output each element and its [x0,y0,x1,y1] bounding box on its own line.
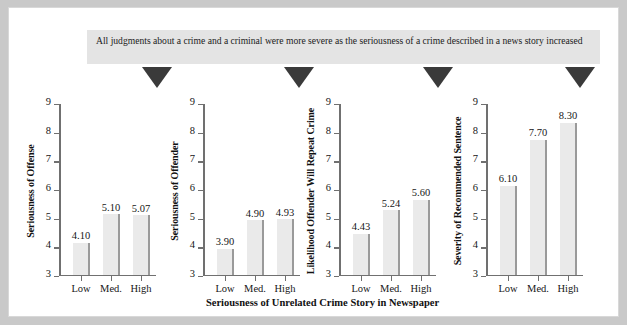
y-axis-tick-label: 8 [326,125,331,136]
bar [500,186,517,275]
y-axis-tick-label: 6 [190,182,195,193]
y-axis-tick: 4 [198,247,203,248]
y-axis-tick: 7 [198,161,203,162]
plot-area: 34567894.43Low5.24Med.5.60High [339,104,435,276]
y-axis-tick: 7 [54,161,59,162]
y-axis-tick-label: 9 [473,96,478,107]
y-axis-tick-label: 8 [190,125,195,136]
y-axis-tick: 8 [481,133,486,134]
bar [383,210,400,274]
x-axis-tick [225,276,226,281]
plot-area: 34567893.90Low4.90Med.4.93High [203,104,299,276]
x-axis-tick [361,276,362,281]
y-axis-line [339,104,341,276]
y-axis-tick: 5 [198,219,203,220]
bar [277,219,294,274]
y-axis-tick: 3 [334,276,339,277]
y-axis-label: Seriousness of Offender [169,107,183,275]
y-axis-tick-label: 4 [326,239,331,250]
figure-canvas: All judgments about a crime and a crimin… [8,7,619,317]
y-axis-tick: 3 [198,276,203,277]
bar-value-label: 7.70 [516,127,560,138]
x-axis-tick [508,276,509,281]
bar [103,214,120,274]
figure-frame: All judgments about a crime and a crimin… [0,0,627,325]
y-axis-tick: 6 [54,190,59,191]
down-triangle-icon [565,67,595,88]
y-axis-tick-label: 3 [190,268,195,279]
bar-value-label: 4.43 [339,221,383,232]
down-triangle-icon [284,67,314,88]
bar-value-label: 5.07 [119,203,163,214]
y-axis-tick-label: 6 [46,182,51,193]
x-axis-tick [141,276,142,281]
bar-value-label: 5.24 [369,198,413,209]
y-axis-tick-label: 5 [190,211,195,222]
y-axis-tick-label: 3 [326,268,331,279]
x-axis-tick [255,276,256,281]
bar [217,249,234,275]
y-axis-line [203,104,205,276]
down-triangle-icon [423,67,453,88]
y-axis-tick: 8 [54,133,59,134]
y-axis-tick: 6 [198,190,203,191]
bar [247,220,264,274]
y-axis-tick-label: 9 [190,96,195,107]
y-axis-tick-label: 9 [46,96,51,107]
y-axis-tick-label: 7 [46,153,51,164]
y-axis-label: Likelihood Offender Will Repeat Crime [305,107,319,275]
x-axis-tick [111,276,112,281]
y-axis-tick-label: 7 [326,153,331,164]
y-axis-tick: 5 [481,219,486,220]
bar [73,243,90,275]
x-axis-tick [421,276,422,281]
y-axis-tick: 9 [54,104,59,105]
x-axis-tick [81,276,82,281]
bar [413,200,430,275]
y-axis-tick: 6 [334,190,339,191]
y-axis-line [486,104,488,276]
y-axis-tick-label: 5 [326,211,331,222]
y-axis-tick-label: 6 [473,182,478,193]
x-axis-tick [568,276,569,281]
y-axis-tick: 5 [334,219,339,220]
y-axis-tick-label: 3 [46,268,51,279]
y-axis-tick-label: 4 [46,239,51,250]
y-axis-tick: 7 [334,161,339,162]
bar [133,215,150,274]
y-axis-tick: 8 [334,133,339,134]
y-axis-tick-label: 8 [46,125,51,136]
y-axis-tick-label: 5 [46,211,51,222]
x-axis-tick-label: High [121,283,161,294]
x-axis-tick [285,276,286,281]
x-axis-tick [391,276,392,281]
bar [530,140,547,275]
bar-value-label: 5.60 [399,187,443,198]
x-axis-tick-label: High [265,283,305,294]
y-axis-tick: 4 [481,247,486,248]
bar-value-label: 6.10 [486,173,530,184]
y-axis-tick: 5 [54,219,59,220]
down-triangle-icon [142,67,172,88]
figure-caption: All judgments about a crime and a crimin… [87,30,600,64]
y-axis-tick-label: 5 [473,211,478,222]
y-axis-tick-label: 8 [473,125,478,136]
y-axis-tick-label: 9 [326,96,331,107]
x-axis-tick-label: High [401,283,441,294]
plot-area: 34567896.10Low7.70Med.8.30High [486,104,582,276]
y-axis-tick: 3 [54,276,59,277]
y-axis-tick-label: 4 [190,239,195,250]
y-axis-line [59,104,61,276]
plot-area: 34567894.10Low5.10Med.5.07High [59,104,155,276]
bar [560,123,577,275]
y-axis-tick: 9 [481,104,486,105]
bar-value-label: 4.93 [263,207,307,218]
y-axis-tick: 4 [334,247,339,248]
x-axis-tick [538,276,539,281]
x-axis-tick-label: High [548,283,588,294]
y-axis-tick-label: 6 [326,182,331,193]
y-axis-tick: 8 [198,133,203,134]
y-axis-label: Seriousness of Offense [25,107,39,275]
y-axis-tick-label: 7 [473,153,478,164]
y-axis-tick: 9 [198,104,203,105]
